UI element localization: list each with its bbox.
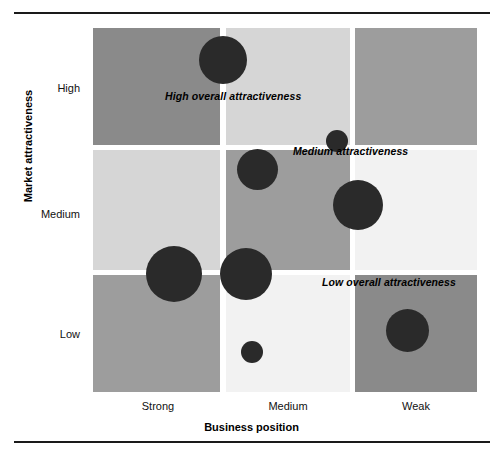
annotation-medium-attractiveness: Medium attractiveness [293, 145, 408, 157]
matrix-plot-area: High overall attractiveness Medium attra… [93, 28, 477, 392]
figure-container: Market attractiveness High Medium Low St… [0, 0, 503, 453]
annotation-high-overall-attractiveness: High overall attractiveness [165, 90, 301, 102]
y-tick-low: Low [20, 328, 80, 340]
x-tick-weak: Weak [355, 400, 477, 412]
cell-high-weak [355, 28, 477, 145]
bottom-rule [14, 441, 490, 443]
bubble-4 [333, 180, 383, 230]
cell-high-strong [93, 28, 220, 145]
y-tick-high: High [20, 82, 80, 94]
annotation-low-overall-attractiveness: Low overall attractiveness [322, 276, 456, 288]
x-axis-title: Business position [0, 421, 503, 433]
bubble-1 [199, 36, 247, 84]
cell-high-medium [226, 28, 350, 145]
y-tick-medium: Medium [10, 208, 80, 220]
bubble-3 [237, 149, 278, 190]
bubble-7 [241, 341, 263, 363]
bubble-6 [220, 248, 272, 300]
bubble-8 [386, 309, 429, 352]
x-tick-strong: Strong [96, 400, 220, 412]
bubble-5 [146, 246, 202, 302]
top-rule [14, 12, 490, 14]
x-tick-medium: Medium [226, 400, 350, 412]
